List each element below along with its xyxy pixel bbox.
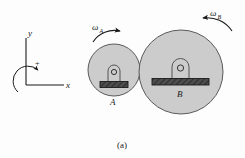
gear-a-pin-hole: [111, 69, 116, 74]
gear-b-pin-hole: [177, 65, 183, 71]
mechanics-figure: y x + A ω A: [0, 0, 245, 158]
gear-a-bearing: [108, 65, 120, 82]
positive-sign-label: +: [35, 59, 40, 68]
gear-a-label: A: [109, 97, 116, 107]
omega-b-symbol: ω: [210, 8, 216, 18]
omega-b-subscript: B: [218, 14, 222, 20]
figure-caption: (a): [117, 140, 127, 150]
gear-b-bearing: [172, 59, 189, 80]
gear-a-ground-bar: [100, 82, 128, 88]
omega-a-subscript: A: [99, 28, 104, 34]
x-axis-label: x: [65, 80, 70, 90]
gear-b-label: B: [177, 89, 183, 99]
y-axis-label: y: [27, 28, 32, 38]
gear-b-ground-bar: [152, 79, 209, 86]
gear-b: B: [139, 30, 223, 114]
figure-canvas: y x + A ω A: [0, 0, 245, 158]
omega-a-symbol: ω: [92, 22, 98, 32]
